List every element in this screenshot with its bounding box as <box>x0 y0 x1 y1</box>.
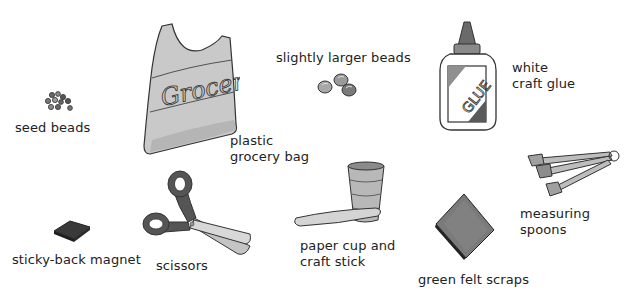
seed-beads-label: seed beads <box>15 120 90 136</box>
seed-beads-icon <box>42 90 76 114</box>
measuring-spoons-icon <box>526 144 626 198</box>
glue-bottle-icon: GLUE <box>436 18 502 134</box>
magnet-label: sticky-back magnet <box>12 252 141 268</box>
felt-scraps-label: green felt scraps <box>418 272 529 288</box>
larger-beads-icon <box>316 72 362 102</box>
felt-scraps-icon <box>432 190 496 260</box>
grocery-bag-icon: Grocery <box>140 20 240 156</box>
larger-beads-label: slightly larger beads <box>276 50 411 66</box>
scissors-icon <box>142 170 254 270</box>
craft-supplies-illustration: seed beads Grocery plastic grocery bag s… <box>0 0 644 304</box>
measuring-spoons-label: measuring spoons <box>520 206 590 238</box>
glue-label: white craft glue <box>512 60 575 92</box>
cup-and-stick-icon <box>292 160 392 232</box>
scissors-label: scissors <box>156 258 208 274</box>
cup-and-stick-label: paper cup and craft stick <box>300 238 395 270</box>
magnet-icon <box>52 219 92 243</box>
